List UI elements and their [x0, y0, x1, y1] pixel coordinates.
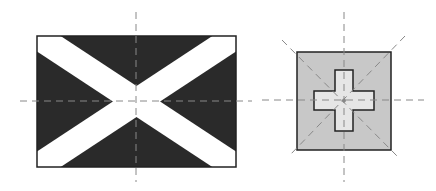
- symmetry-diagram: [0, 0, 436, 191]
